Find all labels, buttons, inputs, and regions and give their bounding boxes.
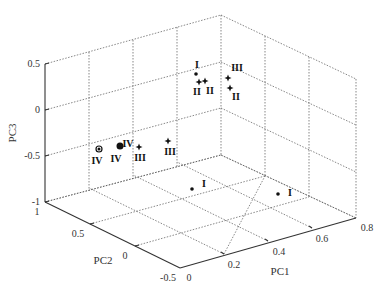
svg-text:1: 1 xyxy=(35,206,40,217)
point-label: II xyxy=(193,86,201,97)
y-axis-label: PC2 xyxy=(94,254,113,266)
data-point: III xyxy=(164,138,176,158)
x-axis xyxy=(180,218,356,268)
svg-text:0.5: 0.5 xyxy=(28,58,41,69)
point-label: II xyxy=(206,85,214,96)
marker-star xyxy=(165,138,172,145)
svg-text:0: 0 xyxy=(35,104,40,115)
marker-ring xyxy=(96,146,102,152)
y-axis xyxy=(45,202,180,268)
data-point: I xyxy=(190,178,206,191)
data-point: III xyxy=(134,144,146,164)
svg-text:0.5: 0.5 xyxy=(72,228,85,239)
data-point: I xyxy=(194,59,199,76)
x-axis-label: PC1 xyxy=(271,265,290,277)
data-point: IV xyxy=(91,146,103,166)
scatter-3d-chart: 0.5 0 -0.5 -1 1 0.5 0 -0.5 0 0.2 0.4 0.6… xyxy=(0,0,384,292)
point-label: IV xyxy=(122,138,134,149)
point-label: I xyxy=(288,187,292,198)
data-point: I xyxy=(276,187,292,198)
svg-text:0.8: 0.8 xyxy=(361,222,374,233)
data-point: IV xyxy=(122,138,134,149)
marker-dot xyxy=(194,72,198,76)
y-tick-labels: 1 0.5 0 -0.5 xyxy=(35,206,176,283)
point-label: III xyxy=(134,152,146,163)
point-label: II xyxy=(232,91,240,102)
marker-dot xyxy=(276,192,280,196)
marker-star xyxy=(136,144,143,151)
point-label: IV xyxy=(91,155,103,166)
point-label: III xyxy=(231,62,243,73)
marker-star xyxy=(225,75,232,82)
svg-text:0: 0 xyxy=(123,250,128,261)
marker-dot xyxy=(190,187,194,191)
data-point: II xyxy=(193,79,202,98)
data-point: II xyxy=(227,85,240,103)
svg-text:0.4: 0.4 xyxy=(273,246,286,257)
svg-text:-0.5: -0.5 xyxy=(24,150,40,161)
marker-star xyxy=(202,78,209,85)
point-label: I xyxy=(202,178,206,189)
z-tick-labels: 0.5 0 -0.5 -1 xyxy=(24,58,40,207)
svg-text:0.6: 0.6 xyxy=(316,233,329,244)
grid-lines xyxy=(45,15,356,254)
svg-text:-0.5: -0.5 xyxy=(160,272,176,283)
svg-text:0.2: 0.2 xyxy=(228,259,241,270)
svg-text:0: 0 xyxy=(187,272,192,283)
marker-star xyxy=(196,79,203,86)
point-label: I xyxy=(195,59,199,70)
data-point: II xyxy=(202,78,214,97)
z-axis-label: PC3 xyxy=(6,123,18,142)
point-label: III xyxy=(164,146,176,157)
point-label: IV xyxy=(110,153,122,164)
